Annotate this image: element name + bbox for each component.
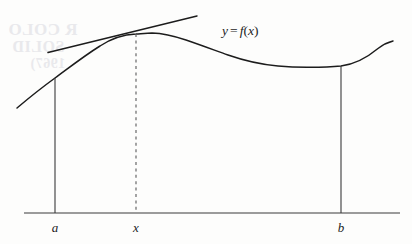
diagram-canvas: [0, 0, 412, 244]
axis-label-x: x: [124, 221, 148, 234]
curve-label-close-paren: ): [254, 23, 259, 38]
axis-label-b: b: [329, 221, 353, 234]
curve-label-equals: =: [228, 23, 240, 38]
tangent-line-figure: R COLO SOLID 1967) y=f(x) a x b: [0, 0, 412, 244]
curve-label: y=f(x): [222, 24, 258, 38]
tangent-line: [48, 16, 197, 53]
function-curve: [17, 33, 393, 108]
axis-label-a: a: [43, 221, 67, 234]
